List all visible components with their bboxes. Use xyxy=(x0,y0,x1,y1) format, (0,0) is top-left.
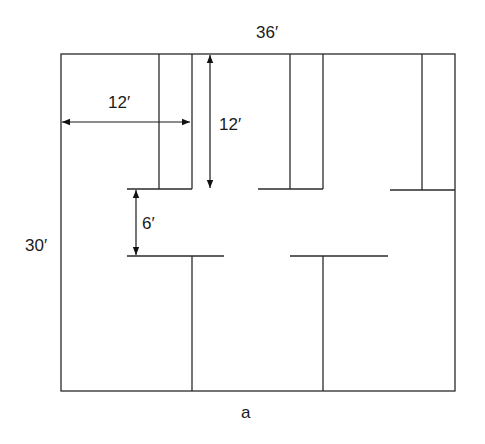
floor-plan-diagram xyxy=(0,0,485,444)
upper-middle-room xyxy=(258,54,323,189)
overall-width-label: 36′ xyxy=(256,24,278,41)
figure-caption: a xyxy=(241,404,250,421)
corridor-width-label: 6′ xyxy=(142,215,155,232)
room-width-label: 12′ xyxy=(108,94,130,111)
room-depth-label: 12′ xyxy=(219,116,241,133)
upper-right-room xyxy=(390,54,455,190)
lower-right-partition xyxy=(290,256,388,391)
overall-height-label: 30′ xyxy=(25,237,47,254)
lower-left-partition xyxy=(127,256,224,391)
